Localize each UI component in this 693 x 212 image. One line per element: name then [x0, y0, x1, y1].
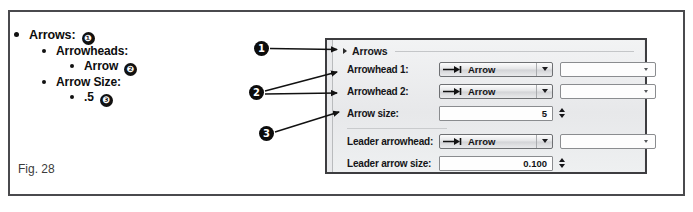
- arrow-size-input[interactable]: 5: [439, 106, 553, 121]
- callout-badge-3: 3: [259, 126, 274, 141]
- arrowhead-1-label: Arrowhead 1:: [347, 64, 439, 75]
- bullet-dot-icon: [70, 95, 74, 99]
- triangle-collapse-icon[interactable]: [343, 48, 347, 54]
- stepper-down-icon[interactable]: [559, 114, 565, 118]
- arrowhead-2-dropdown[interactable]: Arrow: [439, 84, 553, 99]
- bullet-dot-icon: [14, 32, 19, 37]
- leader-arrowhead-secondary-dropdown[interactable]: [560, 134, 656, 149]
- row-leader-arrow-size: Leader arrow size: 0.100: [333, 153, 644, 173]
- arrowhead-start-icon: [440, 63, 466, 76]
- arrowhead-1-dropdown[interactable]: Arrow: [439, 62, 553, 77]
- arrowhead-1-value: Arrow: [466, 64, 536, 75]
- leader-arrow-size-stepper[interactable]: [556, 156, 567, 171]
- arrow-size-value: 5: [542, 108, 547, 119]
- row-leader-arrowhead: Leader arrowhead: Arrow: [333, 131, 644, 151]
- stepper-down-icon[interactable]: [559, 164, 565, 168]
- list-item-label: Arrowheads:: [56, 44, 128, 58]
- chevron-down-small-icon[interactable]: [644, 68, 648, 71]
- arrowhead-2-label: Arrowhead 2:: [347, 86, 439, 97]
- callout-badge-1: 1: [254, 41, 269, 56]
- leader-arrow-size-label: Leader arrow size:: [347, 158, 439, 169]
- figure-caption: Fig. 28: [18, 162, 55, 176]
- arrowhead-start-icon: [440, 85, 466, 98]
- chevron-down-small-icon[interactable]: [644, 140, 648, 143]
- leader-arrow-size-input[interactable]: 0.100: [439, 156, 553, 171]
- leader-arrowhead-label: Leader arrowhead:: [347, 136, 439, 147]
- arrow-size-stepper[interactable]: [556, 106, 567, 121]
- panel-header[interactable]: Arrows: [333, 40, 644, 57]
- bullet-dot-icon: [42, 80, 46, 84]
- list-item: Arrow Size:: [12, 75, 227, 89]
- arrows-properties-panel: Arrows Arrowhead 1: Arrow: [325, 38, 647, 174]
- panel-header-label: Arrows: [352, 45, 388, 57]
- list-item-label: Arrow Size:: [56, 75, 121, 89]
- chevron-down-small-icon[interactable]: [644, 90, 648, 93]
- list-item-label: .5: [84, 90, 94, 104]
- bullet-list: Arrows: ❶ Arrowheads: Arrow ❷ Arrow Size…: [12, 28, 227, 106]
- leader-arrow-size-value: 0.100: [523, 158, 547, 169]
- callout-badge-2: 2: [249, 85, 264, 100]
- arrow-size-label: Arrow size:: [347, 108, 439, 119]
- arrowhead-2-value: Arrow: [466, 86, 536, 97]
- list-item: Arrow ❷: [12, 59, 227, 74]
- bullet-dot-icon: [70, 64, 74, 68]
- callout-marker-1: ❶: [82, 32, 95, 45]
- stepper-up-icon[interactable]: [559, 108, 565, 112]
- leader-arrowhead-value: Arrow: [466, 136, 536, 147]
- header-divider: [395, 51, 634, 52]
- arrowhead-1-secondary-dropdown[interactable]: [560, 62, 656, 77]
- callout-marker-3: ❸: [100, 94, 113, 107]
- row-arrowhead-1: Arrowhead 1: Arrow: [333, 59, 644, 79]
- list-item-label: Arrow: [84, 59, 118, 73]
- bullet-dot-icon: [42, 49, 46, 53]
- arrowhead-start-icon: [440, 135, 466, 148]
- row-arrow-size: Arrow size: 5: [333, 103, 644, 123]
- chevron-down-icon[interactable]: [536, 63, 552, 76]
- chevron-down-icon[interactable]: [536, 85, 552, 98]
- arrowhead-2-secondary-dropdown[interactable]: [560, 84, 656, 99]
- chevron-down-icon[interactable]: [536, 135, 552, 148]
- leader-arrowhead-dropdown[interactable]: Arrow: [439, 134, 553, 149]
- row-arrowhead-2: Arrowhead 2: Arrow: [333, 81, 644, 101]
- list-item: Arrowheads:: [12, 44, 227, 58]
- list-item: .5 ❸: [12, 90, 227, 105]
- list-item-label: Arrows:: [29, 28, 76, 42]
- section-divider: [347, 128, 447, 129]
- stepper-up-icon[interactable]: [559, 158, 565, 162]
- list-item: Arrows: ❶: [12, 28, 227, 43]
